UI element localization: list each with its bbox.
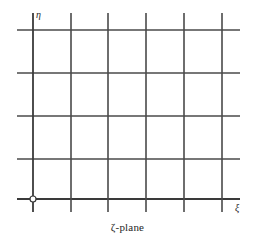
eta-axis-label: η (36, 10, 41, 20)
constant-eta-line-group (17, 30, 240, 199)
zeta-plane-figure: η ξ ζ-plane (0, 0, 255, 241)
figure-caption: ζ-plane (0, 221, 255, 233)
origin-marker-group (30, 196, 36, 202)
origin-circle-icon (30, 196, 36, 202)
grid-plot-area (0, 0, 255, 241)
constant-xi-line-group (33, 13, 222, 212)
xi-axis-label: ξ (235, 203, 239, 213)
